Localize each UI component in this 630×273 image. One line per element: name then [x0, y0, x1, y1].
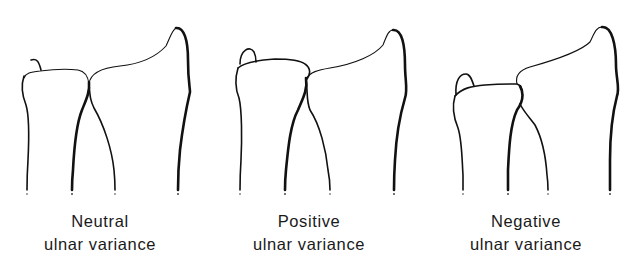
caption-negative: Negative ulnar variance	[436, 210, 616, 256]
bone-cut-ends	[26, 193, 611, 195]
radius-right-edge	[393, 30, 406, 190]
ulna-right-edge	[72, 82, 89, 190]
ulna-left-edge	[22, 76, 28, 190]
ulna-head	[24, 69, 89, 84]
caption-title: Negative	[436, 210, 616, 233]
radius-articular	[89, 28, 176, 84]
ulna-right-edge	[508, 86, 523, 190]
ulna-right-edge	[285, 78, 306, 190]
radius-articular	[306, 30, 393, 79]
panel-negative-drawing	[453, 27, 618, 190]
radius-left-edge	[89, 84, 115, 190]
ulna-styloid	[31, 59, 41, 70]
panel-positive-drawing	[236, 30, 406, 190]
caption-neutral: Neutral ulnar variance	[10, 210, 190, 256]
radius-left-edge	[520, 104, 548, 190]
radius-articular	[517, 27, 602, 84]
ulna-left-edge	[236, 68, 242, 190]
panel-neutral-drawing	[22, 28, 190, 190]
caption-title: Positive	[219, 210, 399, 233]
caption-positive: Positive ulnar variance	[219, 210, 399, 256]
radius-left-edge	[306, 79, 330, 190]
radius-right-edge	[602, 27, 618, 190]
ulnar-variance-figure: Neutral ulnar variance Positive ulnar va…	[0, 0, 630, 273]
caption-subtitle: ulnar variance	[219, 233, 399, 256]
ulna-left-edge	[453, 96, 463, 190]
caption-subtitle: ulnar variance	[10, 233, 190, 256]
radius-right-edge	[176, 28, 190, 190]
caption-subtitle: ulnar variance	[436, 233, 616, 256]
ulna-head	[455, 84, 522, 96]
caption-title: Neutral	[10, 210, 190, 233]
ulna-head	[238, 59, 310, 80]
